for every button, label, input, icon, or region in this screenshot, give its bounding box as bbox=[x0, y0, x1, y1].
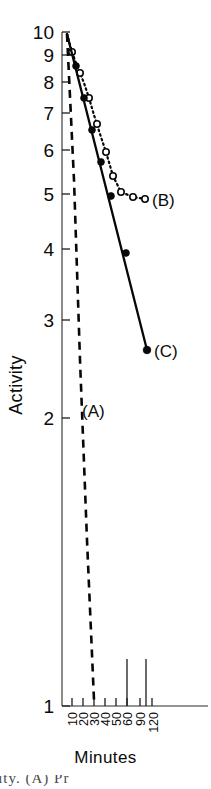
curve-a-line bbox=[67, 34, 94, 700]
curve-b-markers bbox=[69, 49, 148, 202]
figure-panel: 10 9 8 7 6 5 4 3 2 1 Activity 1 bbox=[0, 0, 211, 789]
caption-text: activity. (A) Pr bbox=[0, 775, 69, 787]
x-axis-title: Minutes bbox=[0, 748, 211, 768]
y-tick-label-1: 1 bbox=[43, 696, 54, 717]
y-tick-label-5: 5 bbox=[43, 184, 54, 205]
x-gridline-ticks bbox=[127, 659, 146, 706]
series-label-a: (A) bbox=[82, 402, 105, 421]
series-label-c: (C) bbox=[154, 342, 178, 361]
y-tick-label-8: 8 bbox=[43, 72, 54, 93]
caption-partial: activity. (A) Pr bbox=[0, 775, 211, 789]
x-tick-marks bbox=[72, 698, 152, 706]
y-tick-label-3: 3 bbox=[43, 310, 54, 331]
y-tick-label-4: 4 bbox=[43, 239, 54, 260]
y-tick-label-6: 6 bbox=[43, 140, 54, 161]
y-tick-label-2: 2 bbox=[43, 408, 54, 429]
y-tick-marks bbox=[62, 32, 70, 706]
y-tick-label-10: 10 bbox=[33, 22, 54, 43]
y-tick-label-7: 7 bbox=[43, 103, 54, 124]
x-tick-label-120: 120 bbox=[147, 712, 161, 733]
y-axis-title: Activity bbox=[6, 355, 26, 414]
y-tick-label-9: 9 bbox=[43, 45, 54, 66]
x-tick-label-90: 90 bbox=[134, 712, 148, 726]
curve-b-line bbox=[67, 34, 145, 199]
series-label-b: (B) bbox=[152, 191, 175, 210]
semilog-decay-chart: 10 9 8 7 6 5 4 3 2 1 Activity 1 bbox=[0, 0, 211, 789]
x-tick-label-60: 60 bbox=[121, 712, 135, 726]
